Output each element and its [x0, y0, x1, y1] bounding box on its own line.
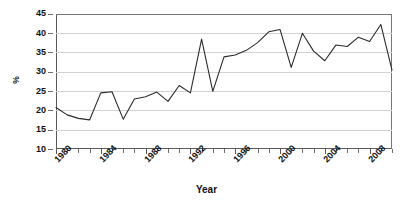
x-axis-tick-labels: 19801984198819921996200020042008	[0, 0, 413, 204]
x-axis-tick-label: 2000	[277, 144, 298, 165]
x-axis-tick-label: 1992	[187, 144, 208, 165]
x-axis-tick-label: 2008	[367, 144, 388, 165]
x-axis-tick-label: 1988	[143, 144, 164, 165]
line-chart: % 1015202530354045 198019841988199219962…	[0, 0, 413, 204]
x-axis-tick-label: 2004	[322, 144, 343, 165]
x-axis-tick-label: 1980	[53, 144, 74, 165]
x-axis-tick-label: 1996	[232, 144, 253, 165]
x-axis-tick-label: 1984	[98, 144, 119, 165]
x-axis-title: Year	[0, 184, 413, 195]
